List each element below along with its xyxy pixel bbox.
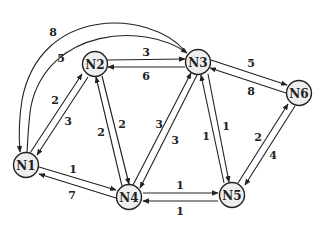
- weight-n4-n3: 3: [155, 118, 163, 131]
- weight-n2-n1: 3: [64, 115, 72, 128]
- node-n6: N6: [287, 81, 312, 106]
- network-diagram: N1 N2 N3 N4 N5 N6 8 5 2 3 3 6 2 2 3 3 1 …: [0, 0, 324, 225]
- weight-n2-n3: 3: [142, 46, 150, 59]
- weight-n3-n1: 8: [49, 26, 57, 39]
- weight-n4-n2: 2: [97, 126, 105, 139]
- weight-n5-n4: 1: [176, 205, 184, 218]
- node-n6-label: N6: [289, 87, 308, 101]
- weight-n3-n6: 5: [247, 57, 255, 70]
- weight-n1-n2: 2: [51, 94, 59, 107]
- node-n2: N2: [83, 52, 108, 77]
- edge-n2-n1: [37, 77, 88, 155]
- weight-n4-n5: 1: [176, 179, 184, 192]
- weight-n2-n4: 2: [118, 118, 126, 131]
- weight-n5-n6: 2: [254, 131, 262, 144]
- node-n1: N1: [14, 153, 39, 178]
- edge-n6-n5: [245, 106, 295, 185]
- edge-n3-n4: [140, 75, 197, 188]
- graph-svg: N1 N2 N3 N4 N5 N6 8 5 2 3 3 6 2 2 3 3 1 …: [0, 0, 324, 225]
- weight-n4-n1: 7: [68, 189, 76, 202]
- weight-n6-n3: 8: [247, 85, 255, 98]
- weight-n3-n4: 3: [171, 134, 179, 147]
- weight-n3-n2: 6: [142, 70, 150, 83]
- weight-n1-n4: 1: [69, 163, 77, 176]
- node-n5-label: N5: [222, 189, 241, 203]
- node-n5: N5: [220, 183, 245, 208]
- node-n4: N4: [117, 185, 142, 210]
- node-n2-label: N2: [85, 58, 104, 72]
- weight-n6-n5: 4: [269, 149, 277, 162]
- node-n4-label: N4: [119, 191, 138, 205]
- edge-n2-n3: [107, 59, 185, 60]
- node-n1-label: N1: [16, 159, 35, 173]
- weight-n1-n3: 5: [57, 52, 65, 65]
- node-n3: N3: [186, 50, 211, 75]
- node-n3-label: N3: [188, 56, 207, 70]
- weight-n3-n5: 1: [222, 120, 230, 133]
- weight-n5-n3: 1: [202, 130, 210, 143]
- edge-n5-n6: [238, 104, 288, 183]
